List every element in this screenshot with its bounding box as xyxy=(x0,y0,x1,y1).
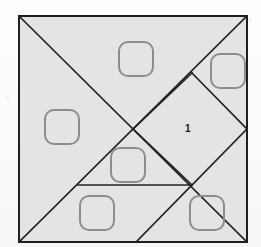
tangram-figure xyxy=(0,0,261,247)
figure-page: 1 xyxy=(0,0,261,247)
region-label-1: 1 xyxy=(185,124,191,134)
